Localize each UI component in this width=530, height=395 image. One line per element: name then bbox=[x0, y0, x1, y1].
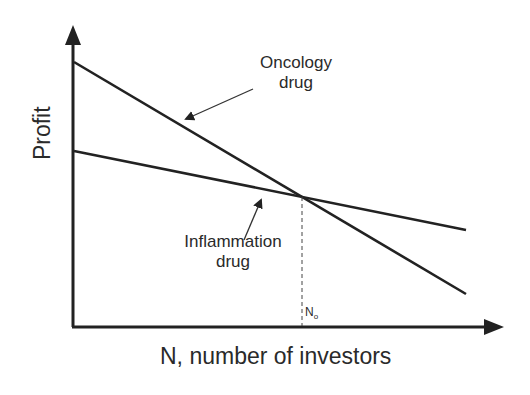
oncology-label-line2: drug bbox=[248, 73, 344, 93]
y-axis-arrow-icon bbox=[65, 25, 81, 45]
x-axis-title: N, number of investors bbox=[160, 343, 391, 369]
y-axis bbox=[65, 25, 81, 327]
x-axis bbox=[72, 319, 504, 335]
n0-marker-label: No bbox=[305, 306, 318, 322]
n0-subscript: o bbox=[314, 312, 318, 321]
oncology-pointer-arrow-icon bbox=[186, 89, 253, 119]
x-axis-arrow-icon bbox=[484, 319, 504, 335]
oncology-drug-label: Oncology drug bbox=[248, 53, 344, 92]
inflammation-drug-line bbox=[74, 151, 466, 230]
n0-main: N bbox=[305, 305, 314, 319]
oncology-label-line1: Oncology bbox=[248, 53, 344, 73]
profit-vs-investors-diagram: Profit N, number of investors Oncology d… bbox=[0, 0, 530, 395]
inflammation-label-line2: drug bbox=[164, 252, 302, 272]
inflammation-drug-label: Inflammation drug bbox=[164, 232, 302, 271]
inflammation-label-line1: Inflammation bbox=[164, 232, 302, 252]
y-axis-title: Profit bbox=[29, 103, 55, 163]
